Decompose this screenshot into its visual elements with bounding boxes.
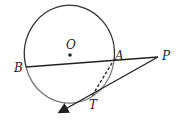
label-t: T	[89, 98, 98, 112]
center-point-o	[68, 53, 72, 57]
chord-at-dashed	[92, 63, 112, 96]
label-p: P	[161, 49, 171, 63]
circle-upper-arc	[24, 5, 114, 67]
geometry-diagram: O B A P T	[0, 0, 178, 122]
label-b: B	[13, 61, 23, 75]
tangent-line-pt	[60, 57, 158, 112]
secant-line-bp	[26, 57, 158, 67]
label-a: A	[114, 49, 124, 63]
label-o: O	[66, 38, 76, 52]
